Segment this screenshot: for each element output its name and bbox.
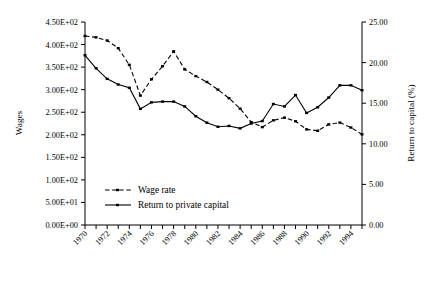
data-point-marker [161, 100, 164, 102]
x-tick-label: 1972 [93, 229, 111, 247]
data-point-marker [361, 133, 364, 135]
data-point-marker [294, 94, 297, 96]
data-point-marker [261, 126, 264, 128]
data-point-marker [228, 97, 231, 99]
right-tick-label: 15.00 [369, 99, 388, 108]
x-tick-label: 1980 [182, 229, 200, 247]
data-point-marker [172, 100, 175, 102]
y-axis-title: Wages [14, 110, 24, 135]
data-point-marker [172, 50, 175, 52]
data-point-marker [327, 96, 330, 98]
series-path [85, 36, 362, 134]
data-point-marker [261, 120, 264, 122]
left-tick-label: 1.00E+02 [45, 176, 78, 185]
x-tick-label: 1986 [249, 229, 267, 247]
data-point-marker [305, 128, 308, 130]
data-point-marker [84, 35, 87, 37]
left-tick-label: 5.00E+01 [45, 198, 78, 207]
series-wage-rate [84, 35, 364, 136]
data-point-marker [216, 126, 219, 128]
data-point-marker [139, 108, 142, 110]
data-point-marker [338, 121, 341, 123]
data-point-marker [139, 94, 142, 96]
right-tick-label: 20.00 [369, 59, 388, 68]
left-axis-ticks: 0.00E+005.00E+011.00E+021.50E+022.00E+02… [45, 18, 85, 230]
data-point-marker [84, 54, 87, 56]
data-point-marker [327, 123, 330, 125]
right-tick-label: 10.00 [369, 140, 388, 149]
series-path [85, 55, 362, 128]
series-layer [84, 35, 364, 136]
data-point-marker [194, 115, 197, 117]
x-tick-label: 1982 [204, 229, 222, 247]
legend-label: Wage rate [138, 185, 176, 195]
left-tick-label: 2.50E+02 [45, 108, 78, 117]
left-tick-label: 1.50E+02 [45, 153, 78, 162]
data-point-marker [106, 39, 109, 41]
x-tick-label: 1970 [71, 229, 89, 247]
data-point-marker [128, 64, 131, 66]
legend-swatch-marker [116, 204, 119, 206]
data-point-marker [239, 107, 242, 109]
data-point-marker [228, 125, 231, 127]
data-point-marker [294, 120, 297, 122]
plot-frame [85, 22, 362, 225]
data-point-marker [117, 47, 120, 49]
x-tick-label: 1978 [160, 229, 178, 247]
data-point-marker [183, 105, 186, 107]
data-point-marker [194, 75, 197, 77]
left-tick-label: 3.00E+02 [45, 86, 78, 95]
left-tick-label: 3.50E+02 [45, 63, 78, 72]
data-point-marker [161, 65, 164, 67]
series-return-to-private-capital [84, 54, 364, 129]
data-point-marker [272, 119, 275, 121]
data-point-marker [106, 78, 109, 80]
legend-label: Return to private capital [138, 200, 229, 210]
data-point-marker [349, 84, 352, 86]
dual-axis-line-chart: 0.00E+005.00E+011.00E+021.50E+022.00E+02… [0, 0, 432, 281]
x-tick-label: 1992 [315, 229, 333, 247]
chart-legend: Wage rateReturn to private capital [105, 185, 229, 210]
data-point-marker [216, 88, 219, 90]
data-point-marker [283, 116, 286, 118]
data-point-marker [205, 121, 208, 123]
x-tick-label: 1994 [337, 228, 356, 247]
x-axis-tick-labels: 1970197219741976197819801982198419861988… [71, 228, 356, 247]
x-tick-label: 1988 [271, 229, 289, 247]
data-point-marker [205, 81, 208, 83]
data-point-marker [316, 106, 319, 108]
data-point-marker [239, 127, 242, 129]
right-tick-label: 25.00 [369, 18, 388, 27]
left-tick-label: 4.00E+02 [45, 41, 78, 50]
x-axis-ticks [85, 225, 362, 229]
data-point-marker [349, 126, 352, 128]
chart-container: 0.00E+005.00E+011.00E+021.50E+022.00E+02… [0, 0, 432, 281]
data-point-marker [316, 130, 319, 132]
data-point-marker [95, 67, 98, 69]
right-tick-label: 5.00 [369, 180, 384, 189]
y2-axis-title: Return to capital (%) [406, 84, 416, 161]
x-tick-label: 1976 [138, 229, 156, 247]
x-tick-label: 1990 [293, 229, 311, 247]
data-point-marker [95, 36, 98, 38]
data-point-marker [283, 105, 286, 107]
data-point-marker [150, 101, 153, 103]
left-tick-label: 0.00E+00 [45, 221, 78, 230]
data-point-marker [117, 83, 120, 85]
right-axis-ticks: 0.005.0010.0015.0020.0025.00 [362, 18, 388, 230]
data-point-marker [128, 87, 131, 89]
right-tick-label: 0.00 [369, 221, 384, 230]
data-point-marker [305, 112, 308, 114]
legend-item-return-to-private-capital: Return to private capital [105, 200, 229, 210]
data-point-marker [272, 103, 275, 105]
data-point-marker [183, 68, 186, 70]
left-tick-label: 4.50E+02 [45, 18, 78, 27]
x-tick-label: 1984 [226, 228, 245, 247]
legend-swatch-marker [116, 189, 119, 191]
left-tick-label: 2.00E+02 [45, 131, 78, 140]
x-tick-label: 1974 [116, 228, 135, 247]
data-point-marker [338, 84, 341, 86]
data-point-marker [250, 122, 253, 124]
legend-item-wage-rate: Wage rate [105, 185, 176, 195]
data-point-marker [361, 89, 364, 91]
